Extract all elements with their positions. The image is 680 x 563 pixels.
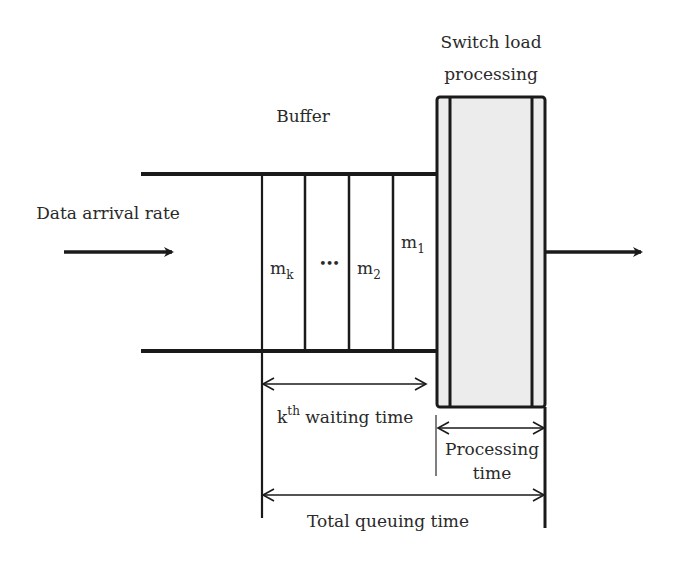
data-arrival-label: Data arrival rate <box>36 203 180 223</box>
processing-label-line1: Processing <box>445 439 539 459</box>
waiting-time-label: kth waiting time <box>277 404 413 427</box>
slot-ellipsis: ••• <box>319 256 339 271</box>
switch-title-line1: Switch load <box>440 32 541 52</box>
switch-processor-box <box>437 97 545 407</box>
slot-mk-label: mk <box>270 258 294 282</box>
queueing-diagram: Switch load processing Buffer Data arriv… <box>0 0 680 563</box>
slot-m2-label: m2 <box>357 258 381 282</box>
total-queuing-label: Total queuing time <box>307 511 469 531</box>
switch-title-line2: processing <box>444 64 538 84</box>
slot-m1-label: m1 <box>401 232 425 256</box>
processing-label-line2: time <box>473 463 511 483</box>
buffer-label: Buffer <box>276 106 331 126</box>
